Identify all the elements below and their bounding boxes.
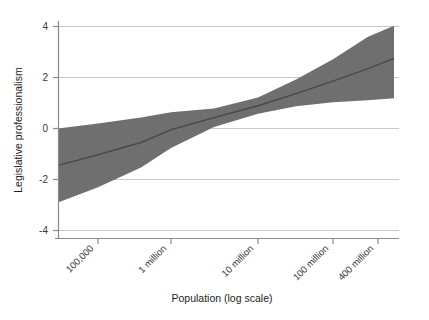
x-axis-title: Population (log scale) [172, 292, 273, 304]
chart-plot-svg: 4 2 0 -2 -4 100,000 1 million 10 million… [0, 0, 429, 320]
y-axis-title: Legislative professionalism [12, 67, 24, 193]
chart-figure: 4 2 0 -2 -4 100,000 1 million 10 million… [0, 0, 429, 320]
ytick-label-0: 0 [42, 123, 48, 134]
ytick-label-neg2: -2 [39, 174, 48, 185]
ytick-label-2: 2 [42, 72, 48, 83]
ytick-label-4: 4 [42, 21, 48, 32]
ytick-label-neg4: -4 [39, 225, 48, 236]
